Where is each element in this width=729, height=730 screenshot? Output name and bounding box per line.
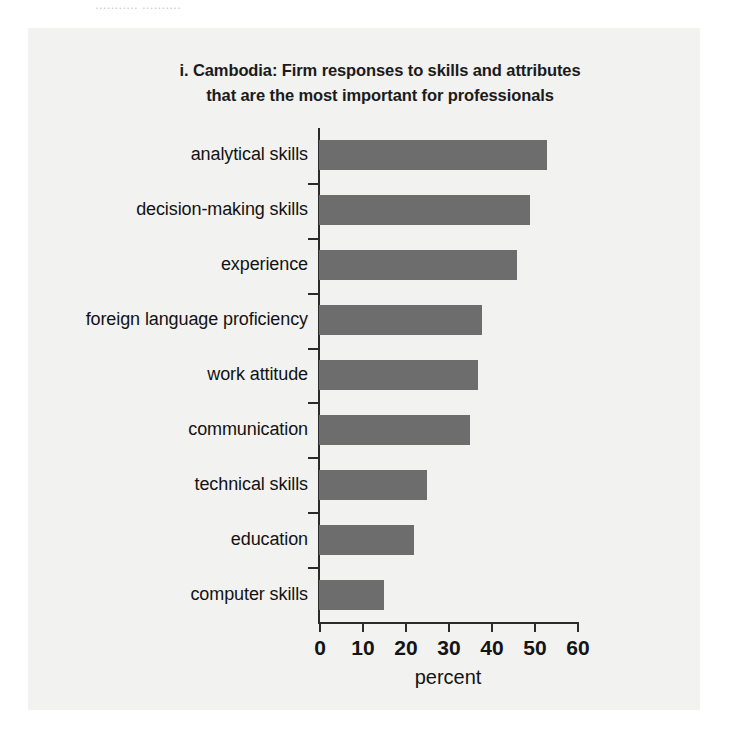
y-axis-tick (308, 293, 319, 295)
x-axis-tick-label: 40 (470, 636, 514, 660)
x-axis-title: percent (318, 666, 578, 689)
x-axis-tick-label: 20 (384, 636, 428, 660)
y-axis-tick (308, 457, 319, 459)
y-axis-label-row: analytical skills (0, 144, 308, 166)
y-axis-label-row: foreign language proficiency (0, 309, 308, 331)
bar-computer-skills (319, 580, 384, 610)
y-axis-tick (308, 402, 319, 404)
x-axis-tick (577, 622, 579, 632)
y-axis-label-row: computer skills (0, 584, 308, 606)
y-axis-label-row: education (0, 529, 308, 551)
y-axis-label-row: technical skills (0, 474, 308, 496)
x-axis-tick-label: 60 (556, 636, 600, 660)
x-axis-tick-label: 50 (513, 636, 557, 660)
x-axis-tick-label: 10 (341, 636, 385, 660)
y-axis-tick (308, 183, 319, 185)
bar-education (319, 525, 414, 555)
y-axis-label: technical skills (8, 474, 308, 495)
bar-foreign-language-proficiency (319, 305, 482, 335)
x-axis-tick (534, 622, 536, 632)
y-axis-label-row: experience (0, 254, 308, 276)
bar-analytical-skills (319, 140, 547, 170)
bar-communication (319, 415, 470, 445)
x-axis-tick-label: 0 (298, 636, 342, 660)
y-axis-tick (308, 348, 319, 350)
bar-decision-making-skills (319, 195, 530, 225)
y-axis-label: analytical skills (8, 144, 308, 165)
y-axis-tick (308, 567, 319, 569)
plot-area: analytical skillsdecision-making skillse… (0, 0, 729, 730)
y-axis-label: experience (8, 254, 308, 275)
bar-technical-skills (319, 470, 427, 500)
y-axis-label: work attitude (8, 364, 308, 385)
bar-experience (319, 250, 517, 280)
y-axis-label-row: work attitude (0, 364, 308, 386)
x-axis-tick (362, 622, 364, 632)
y-axis-label: decision-making skills (8, 199, 308, 220)
y-axis-tick (308, 512, 319, 514)
y-axis-label: computer skills (8, 584, 308, 605)
bar-work-attitude (319, 360, 478, 390)
x-axis-tick-label: 30 (427, 636, 471, 660)
x-axis-tick (405, 622, 407, 632)
y-axis-label-row: communication (0, 419, 308, 441)
x-axis-tick (491, 622, 493, 632)
x-axis-tick (448, 622, 450, 632)
y-axis-label: communication (8, 419, 308, 440)
x-axis-tick (319, 622, 321, 632)
y-axis-label: education (8, 529, 308, 550)
y-axis-label: foreign language proficiency (8, 309, 308, 330)
figure-page: ........... ,......... i. Cambodia: Firm… (0, 0, 729, 730)
y-axis-tick (308, 238, 319, 240)
y-axis-label-row: decision-making skills (0, 199, 308, 221)
